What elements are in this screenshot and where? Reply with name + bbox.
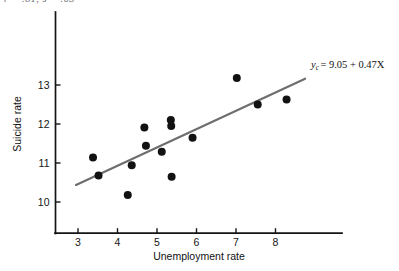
regression-equation-label: yc= 9.05 + 0.47X xyxy=(310,59,385,72)
x-tick-label: 8 xyxy=(273,236,279,248)
data-point xyxy=(167,122,175,130)
y-tick-label: 13 xyxy=(38,79,50,91)
x-tick-label: 5 xyxy=(154,236,160,248)
data-point xyxy=(158,148,166,156)
data-point xyxy=(128,161,136,169)
axes-spines xyxy=(55,12,342,234)
equation-subscript: c xyxy=(316,64,320,72)
x-axis-title: Unemployment rate xyxy=(153,250,245,262)
x-tick-label: 3 xyxy=(75,236,81,248)
x-tick-label: 6 xyxy=(194,236,200,248)
data-point-group xyxy=(89,74,291,199)
data-point xyxy=(89,154,97,162)
regression-line xyxy=(76,79,305,185)
data-point xyxy=(142,142,150,150)
y-tick-label: 12 xyxy=(38,118,50,130)
figure-container: r = .81, s = .63 345678 10111213 Unemplo… xyxy=(0,0,399,271)
x-tick-label: 7 xyxy=(233,236,239,248)
data-point xyxy=(140,124,148,132)
data-point xyxy=(189,134,197,142)
data-point xyxy=(254,101,262,109)
y-tick-label: 10 xyxy=(38,196,50,208)
data-point xyxy=(283,95,291,103)
x-tick-label: 4 xyxy=(115,236,121,248)
y-tick-label: 11 xyxy=(39,157,50,169)
data-point xyxy=(233,74,241,82)
data-point xyxy=(168,173,176,181)
data-point xyxy=(95,171,103,179)
x-axis-tick-labels: 345678 xyxy=(75,236,279,248)
y-axis-tick-labels: 10111213 xyxy=(38,79,50,208)
equation-rhs: = 9.05 + 0.47X xyxy=(320,59,384,70)
scatter-plot: 345678 10111213 Unemployment rate Suicid… xyxy=(0,0,399,271)
data-point xyxy=(124,191,132,199)
y-axis-title: Suicide rate xyxy=(11,96,23,152)
